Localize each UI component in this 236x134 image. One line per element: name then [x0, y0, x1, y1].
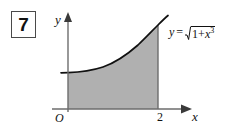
radical-sign-icon [185, 26, 191, 40]
curve-equation-annotation: y = 1+x3 [169, 26, 215, 40]
equation-left-side: y [169, 26, 174, 38]
x-axis-label: x [192, 110, 198, 123]
equation-equals-sign: = [176, 26, 183, 38]
radicand-lead: 1+ [192, 27, 205, 41]
x-axis-arrowhead [181, 105, 192, 114]
y-axis-label: y [55, 13, 61, 26]
y-axis-arrowhead [64, 12, 72, 22]
figure-container: 7 y x O 2 y = 1+x3 [0, 0, 236, 134]
plot-area [0, 0, 236, 134]
origin-label: O [55, 112, 64, 124]
x-tick-label-2: 2 [157, 111, 163, 123]
radicand: 1+x3 [191, 26, 215, 40]
square-root-expression: 1+x3 [185, 26, 215, 40]
radicand-exponent: 3 [210, 26, 214, 35]
